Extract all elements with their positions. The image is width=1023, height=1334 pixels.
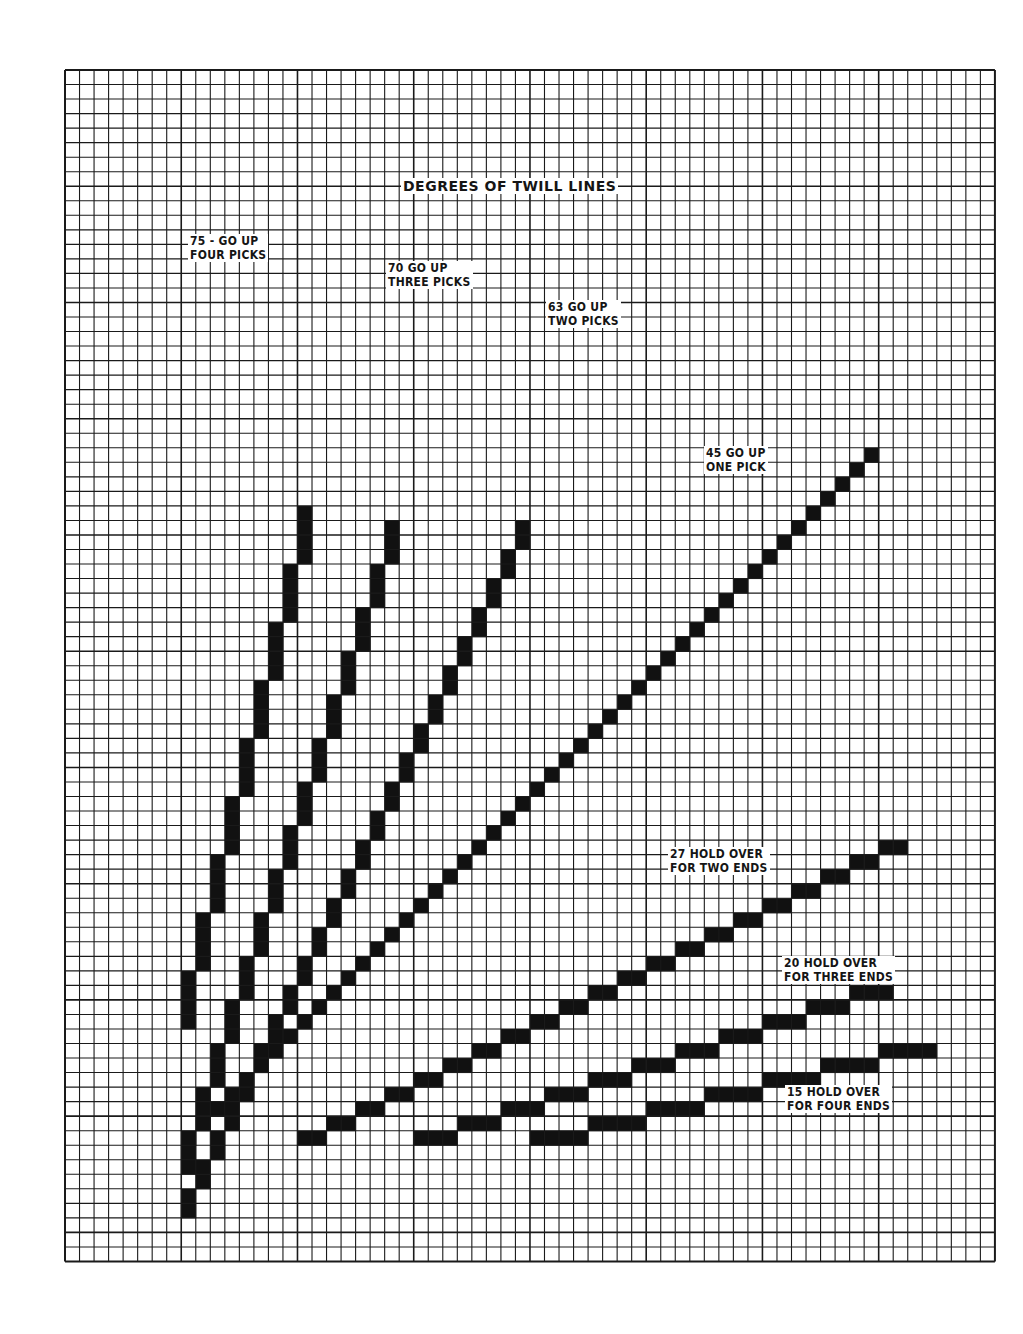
twill-cell-27	[530, 1014, 545, 1029]
twill-cell-20	[748, 1029, 763, 1044]
label-20-line2: FOR THREE ENDS	[784, 970, 893, 984]
twill-cell-70	[327, 695, 342, 710]
twill-cell-20	[806, 1000, 821, 1015]
twill-cell-27	[733, 913, 748, 928]
label-70-degree: 70 GO UP THREE PICKS	[386, 261, 473, 289]
twill-cell-70	[210, 1073, 225, 1088]
twill-cell-63	[312, 927, 327, 942]
twill-cell-63	[327, 898, 342, 913]
twill-cell-15	[704, 1087, 719, 1102]
twill-cell-45	[210, 1102, 225, 1117]
label-63-line2: TWO PICKS	[548, 314, 619, 328]
twill-cell-15	[922, 1044, 937, 1059]
twill-cell-27	[515, 1029, 530, 1044]
twill-cell-45	[515, 797, 530, 812]
label-15-line2: FOR FOUR ENDS	[787, 1099, 890, 1113]
twill-cell-15	[762, 1073, 777, 1088]
twill-cell-63	[196, 1160, 211, 1175]
twill-cell-45	[239, 1073, 254, 1088]
label-27-line2: FOR TWO ENDS	[670, 861, 768, 875]
twill-cell-27	[879, 840, 894, 855]
twill-cell-75	[297, 520, 312, 535]
twill-cell-15	[879, 1044, 894, 1059]
twill-cell-27	[603, 985, 618, 1000]
twill-cell-27	[370, 1102, 385, 1117]
twill-cell-27	[748, 913, 763, 928]
twill-cell-45	[733, 579, 748, 594]
twill-cell-70	[370, 593, 385, 608]
twill-cell-70	[327, 724, 342, 739]
twill-cell-75	[297, 549, 312, 564]
twill-cell-63	[414, 738, 429, 753]
twill-cell-15	[661, 1102, 676, 1117]
twill-cell-75	[268, 637, 283, 652]
twill-cell-27	[399, 1087, 414, 1102]
twill-cell-15	[850, 1058, 865, 1073]
label-45-degree: 45 GO UP ONE PICK	[704, 446, 768, 474]
twill-cell-15	[690, 1102, 705, 1117]
twill-cell-45	[661, 651, 676, 666]
twill-cell-45	[588, 724, 603, 739]
twill-cell-27	[472, 1044, 487, 1059]
twill-cell-63	[457, 637, 472, 652]
twill-cell-27	[297, 1131, 312, 1146]
twill-cell-63	[428, 695, 443, 710]
twill-cell-75	[268, 622, 283, 637]
twill-cell-20	[879, 985, 894, 1000]
twill-cell-45	[559, 753, 574, 768]
twill-cell-70	[312, 738, 327, 753]
twill-cell-27	[690, 942, 705, 957]
twill-cell-45	[254, 1058, 269, 1073]
twill-cell-70	[356, 622, 371, 637]
twill-cell-45	[603, 709, 618, 724]
twill-cell-20	[472, 1116, 487, 1131]
twill-cell-20	[428, 1131, 443, 1146]
twill-cell-63	[254, 1044, 269, 1059]
twill-cell-45	[762, 549, 777, 564]
twill-cell-20	[850, 985, 865, 1000]
twill-cell-45	[268, 1044, 283, 1059]
twill-cell-63	[515, 520, 530, 535]
twill-cell-27	[356, 1102, 371, 1117]
twill-cell-20	[603, 1073, 618, 1088]
twill-cell-63	[370, 811, 385, 826]
twill-cell-63	[356, 840, 371, 855]
twill-cell-27	[486, 1044, 501, 1059]
twill-cell-75	[239, 767, 254, 782]
twill-cell-70	[254, 942, 269, 957]
twill-cell-45	[283, 1029, 298, 1044]
twill-cell-75	[210, 855, 225, 870]
twill-cell-27	[574, 1000, 589, 1015]
twill-cell-20	[544, 1087, 559, 1102]
twill-cell-63	[443, 666, 458, 681]
twill-cell-75	[181, 1000, 196, 1015]
twill-cell-45	[196, 1116, 211, 1131]
twill-cell-20	[559, 1087, 574, 1102]
twill-cell-70	[370, 579, 385, 594]
twill-cell-45	[297, 1014, 312, 1029]
twill-cell-63	[414, 724, 429, 739]
twill-cell-45	[356, 956, 371, 971]
twill-cell-15	[632, 1116, 647, 1131]
twill-cell-20	[646, 1058, 661, 1073]
twill-cell-75	[196, 942, 211, 957]
twill-cell-63	[283, 1000, 298, 1015]
twill-cell-70	[297, 797, 312, 812]
twill-cell-27	[632, 971, 647, 986]
twill-cell-15	[733, 1087, 748, 1102]
twill-cell-70	[196, 1087, 211, 1102]
twill-cell-70	[385, 549, 400, 564]
twill-cell-70	[181, 1160, 196, 1175]
twill-cell-70	[268, 869, 283, 884]
twill-cell-63	[341, 869, 356, 884]
twill-cell-70	[239, 971, 254, 986]
twill-cell-45	[704, 608, 719, 623]
twill-cell-70	[297, 811, 312, 826]
twill-cell-63	[356, 855, 371, 870]
twill-cell-27	[559, 1000, 574, 1015]
twill-cell-27	[893, 840, 908, 855]
twill-cell-63	[399, 767, 414, 782]
twill-cell-75	[254, 709, 269, 724]
twill-cell-45	[312, 1000, 327, 1015]
label-15-line1: 15 HOLD OVER	[787, 1085, 890, 1099]
